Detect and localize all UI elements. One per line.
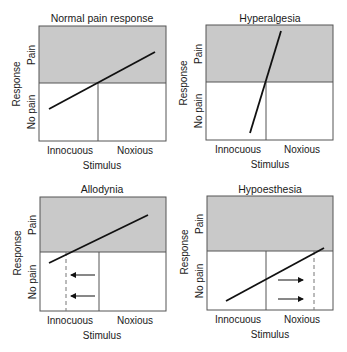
pain-response-diagram: Normal pain response Pain No pain Respon… [0,0,347,352]
panel-normal-pain-response: Normal pain response Pain No pain Respon… [11,12,166,171]
x-axis-title: Stimulus [83,160,121,171]
y-axis-title: Response [12,230,23,275]
panel-title: Normal pain response [51,12,154,24]
panel-title: Hyperalgesia [239,12,300,24]
no-pain-region [206,82,333,140]
x-label-noxious: Noxious [284,144,320,155]
y-label-pain: Pain [193,44,204,64]
x-label-innocuous: Innocuous [215,314,261,325]
pain-region [40,197,166,252]
panel-allodynia: Allodynia Pain No pain Response Innocuou… [12,183,166,341]
no-pain-region [40,252,166,311]
x-label-noxious: Noxious [284,314,320,325]
y-label-pain: Pain [26,45,37,65]
x-label-noxious: Noxious [117,145,153,156]
y-axis-title: Response [179,229,190,274]
x-label-innocuous: Innocuous [215,144,261,155]
x-label-innocuous: Innocuous [47,315,93,326]
panel-title: Allodynia [81,183,124,195]
pain-region [39,26,166,83]
y-label-no-pain: No pain [27,265,38,299]
x-label-innocuous: Innocuous [47,145,93,156]
y-label-no-pain: No pain [193,94,204,128]
x-axis-title: Stimulus [251,329,289,340]
panel-hypoesthesia: Hypoesthesia Pain No pain Response Innoc… [179,183,333,340]
y-label-pain: Pain [27,215,38,235]
y-axis-title: Response [11,61,22,106]
panel-hyperalgesia: Hyperalgesia Pain No pain Response Innoc… [178,12,333,170]
x-axis-title: Stimulus [251,159,289,170]
x-label-noxious: Noxious [117,315,153,326]
y-axis-title: Response [178,60,189,105]
y-label-no-pain: No pain [194,264,205,298]
y-label-no-pain: No pain [26,95,37,129]
no-pain-region [39,83,166,141]
pain-region [207,196,333,251]
panel-title: Hypoesthesia [238,183,302,195]
x-axis-title: Stimulus [83,330,121,341]
pain-region [206,25,333,82]
y-label-pain: Pain [194,214,205,234]
